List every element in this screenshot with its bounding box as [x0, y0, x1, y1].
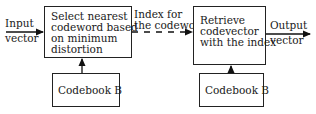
- output-label-line1: Output: [270, 20, 307, 31]
- input-label-line1: Input: [5, 18, 34, 29]
- codebook-right-block: Codebook B: [199, 73, 264, 107]
- input-label-line2: vector: [5, 33, 39, 44]
- encoder-line4: distortion: [51, 44, 103, 55]
- decoder-line3: with the index: [200, 37, 276, 48]
- codebook-left-block: Codebook B: [52, 73, 120, 107]
- encoder-block: Select nearest codeword based on minimum…: [44, 6, 132, 58]
- codebook-right-label: Codebook B: [205, 85, 269, 96]
- decoder-block: Retrieve codevector with the index: [193, 6, 266, 65]
- codebook-left-label: Codebook B: [58, 85, 122, 96]
- output-label-line2: vector: [270, 35, 304, 46]
